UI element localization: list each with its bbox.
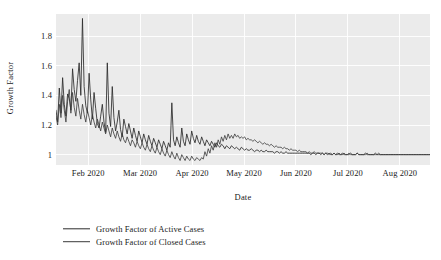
x-axis-title: Date — [56, 192, 430, 202]
x-tick-label: Aug 2020 — [383, 168, 418, 178]
x-tick-label: Jun 2020 — [280, 168, 312, 178]
y-tick-label: 1 — [48, 150, 52, 160]
growth-factor-line-chart: Growth Factor 11.21.41.61.8 Feb 2020Mar … — [0, 0, 441, 260]
legend-line-icon-active — [62, 222, 91, 235]
x-tick-label: Mar 2020 — [123, 168, 157, 178]
y-axis-title-text: Growth Factor — [5, 62, 15, 114]
y-axis-title: Growth Factor — [2, 0, 18, 176]
legend-label-closed: Growth Factor of Closed Cases — [91, 237, 206, 247]
plot-area — [56, 14, 430, 165]
series-line-active-cases — [56, 18, 430, 154]
x-tick-label: May 2020 — [226, 168, 262, 178]
x-tick-label: Apr 2020 — [176, 168, 209, 178]
y-tick-label: 1.4 — [41, 90, 52, 100]
plot-svg — [56, 14, 430, 165]
y-tick-label: 1.6 — [41, 61, 52, 71]
legend-item-closed-cases: Growth Factor of Closed Cases — [62, 235, 362, 248]
y-axis-tick-labels: 11.21.41.61.8 — [20, 0, 54, 260]
y-tick-label: 1.2 — [41, 120, 52, 130]
y-tick-label: 1.8 — [41, 31, 52, 41]
x-tick-label: Jul 2020 — [333, 168, 363, 178]
legend-label-active: Growth Factor of Active Cases — [91, 224, 204, 234]
x-tick-label: Feb 2020 — [72, 168, 105, 178]
chart-legend: Growth Factor of Active Cases Growth Fac… — [62, 222, 362, 248]
series-lines — [56, 18, 430, 160]
legend-item-active-cases: Growth Factor of Active Cases — [62, 222, 362, 235]
legend-line-icon-closed — [62, 235, 91, 248]
x-axis-tick-labels: Feb 2020Mar 2020Apr 2020May 2020Jun 2020… — [0, 168, 441, 184]
